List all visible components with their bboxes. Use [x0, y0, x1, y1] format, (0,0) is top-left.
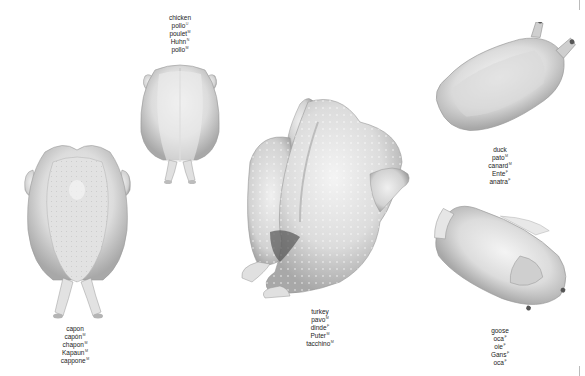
name-it: ocaF [480, 358, 520, 366]
name-it: polloM [160, 45, 200, 53]
name-de: GansF [480, 350, 520, 358]
name-es: ocaF [480, 334, 520, 342]
name-es: capónM [55, 332, 95, 340]
name-fr: chaponM [55, 340, 95, 348]
goose-label: goose ocaF oieF GansF ocaF [480, 327, 520, 366]
name-it: tacchinoM [297, 339, 343, 347]
name-es: polloU [160, 21, 200, 29]
page-edge-mark-top [579, 0, 580, 10]
name-es: pavoM [297, 315, 343, 323]
name-en: capon [55, 325, 95, 332]
name-de: KapaunM [55, 348, 95, 356]
name-it: anatraF [480, 177, 520, 185]
name-de: PuterM [297, 331, 343, 339]
name-fr: oieF [480, 342, 520, 350]
name-en: goose [480, 327, 520, 334]
name-fr: dindeF [297, 323, 343, 331]
name-es: patoM [480, 153, 520, 161]
name-fr: canardM [480, 161, 520, 169]
name-en: chicken [160, 14, 200, 21]
turkey-illustration [230, 92, 430, 302]
chicken-illustration [135, 62, 225, 187]
capon-label: capon capónM chaponM KapaunM capponeM [55, 325, 95, 364]
name-de: HuhnN [160, 37, 200, 45]
chicken-label: chicken polloU pouletM HuhnN polloM [160, 14, 200, 53]
name-en: duck [480, 146, 520, 153]
duck-illustration [425, 22, 585, 147]
page-edge-mark-bottom [579, 366, 580, 376]
capon-illustration [15, 140, 140, 325]
turkey-label: turkey pavoM dindeF PuterM tacchinoM [297, 308, 343, 347]
name-en: turkey [297, 308, 343, 315]
duck-label: duck patoM canardM EnteF anatraF [480, 146, 520, 185]
name-fr: pouletM [160, 29, 200, 37]
name-de: EnteF [480, 169, 520, 177]
goose-illustration [420, 198, 585, 323]
name-it: capponeM [55, 356, 95, 364]
